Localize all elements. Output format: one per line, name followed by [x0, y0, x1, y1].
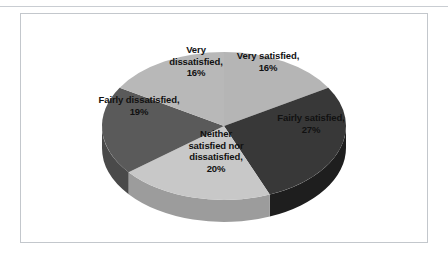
pie-top-surface	[102, 52, 346, 200]
pie-chart: Very dissatisfied, 16% Very satisfied, 1…	[21, 14, 427, 242]
pie-chart-svg	[21, 14, 427, 242]
chart-frame: Very dissatisfied, 16% Very satisfied, 1…	[20, 13, 428, 243]
page-divider-rule	[0, 6, 448, 7]
